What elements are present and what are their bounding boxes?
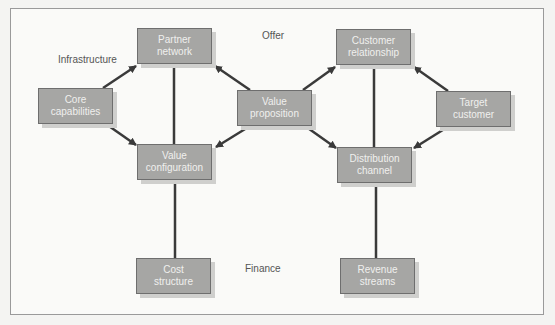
target-customer-box: Targetcustomer [436, 91, 511, 127]
box-line: Target [453, 97, 494, 109]
customer-relationship-box: Customerrelationship [336, 29, 411, 65]
revenue-streams-box: Revenuestreams [340, 258, 415, 294]
partner-network-box: Partnernetwork [137, 28, 212, 64]
box-line: Partner [157, 34, 192, 46]
box-line: channel [349, 165, 399, 177]
connector-lines [0, 0, 555, 325]
core-capabilities-box: Corecapabilities [38, 88, 113, 124]
box-line: Cost [154, 264, 193, 276]
box-line: Value [146, 150, 203, 162]
box-line: relationship [348, 47, 399, 59]
finance-label: Finance [245, 263, 281, 274]
box-line: streams [357, 276, 397, 288]
value-configuration-box: Valueconfiguration [137, 144, 212, 180]
box-line: customer [453, 109, 494, 121]
box-line: Distribution [349, 153, 399, 165]
value-proposition-box: Valueproposition [237, 90, 312, 126]
box-line: proposition [250, 108, 299, 120]
box-line: Revenue [357, 264, 397, 276]
box-line: capabilities [51, 106, 100, 118]
distribution-channel-box: Distributionchannel [337, 147, 412, 183]
box-line: network [157, 46, 192, 58]
box-line: configuration [146, 162, 203, 174]
box-line: structure [154, 276, 193, 288]
box-line: Core [51, 94, 100, 106]
box-line: Value [250, 96, 299, 108]
box-line: Customer [348, 35, 399, 47]
infrastructure-label: Infrastructure [58, 54, 117, 65]
offer-label: Offer [262, 30, 284, 41]
cost-structure-box: Coststructure [136, 258, 211, 294]
